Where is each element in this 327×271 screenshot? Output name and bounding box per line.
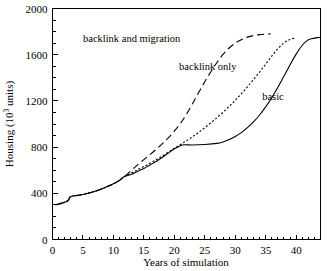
x-tick-label: 40 (291, 244, 303, 256)
x-tick-labels: 0510152025303540 (50, 244, 302, 256)
x-tick-label: 15 (138, 244, 150, 256)
series-line-backlink-and-migration (56, 34, 271, 205)
x-tick-label: 0 (50, 244, 56, 256)
series-label-backlink-and-migration: backlink and migration (83, 33, 181, 44)
x-axis-title: Years of simulation (143, 256, 229, 268)
chart-container: 0510152025303540 0400800120016002000 bas… (0, 0, 327, 271)
y-tick-labels: 0400800120016002000 (26, 3, 49, 246)
x-tick-label: 20 (169, 244, 181, 256)
y-tick-label: 0 (42, 234, 48, 246)
series-line-backlink-only (56, 38, 297, 205)
series-annotations: basicbacklink onlybacklink and migration (83, 33, 284, 101)
data-series (56, 34, 321, 205)
y-axis-title-tail: units) (3, 81, 16, 109)
series-label-backlink-only: backlink only (179, 61, 237, 72)
x-tick-label: 25 (199, 244, 211, 256)
y-tick-label: 400 (31, 187, 48, 199)
x-tick-label: 35 (260, 244, 272, 256)
x-tick-label: 30 (230, 244, 242, 256)
x-tick-label: 5 (80, 244, 86, 256)
y-tick-label: 800 (31, 141, 48, 153)
y-tick-label: 1200 (26, 95, 49, 107)
series-label-basic: basic (262, 91, 284, 102)
y-axis-title: Housing (103 units) (2, 81, 16, 168)
y-tick-label: 2000 (26, 3, 49, 15)
x-tick-label: 10 (108, 244, 120, 256)
y-tick-label: 1600 (26, 49, 49, 61)
line-chart: 0510152025303540 0400800120016002000 bas… (0, 0, 327, 271)
y-axis-title-main: Housing (10 (3, 112, 16, 167)
